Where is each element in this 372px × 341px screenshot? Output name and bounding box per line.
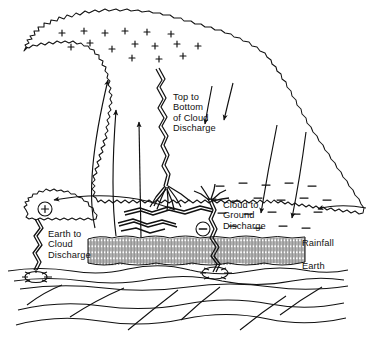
label-rainfall: Rainfall: [302, 238, 334, 249]
left-small-cloud: [24, 189, 97, 220]
thunderstorm-diagram: Top to Bottom of Cloud Discharge Cloud t…: [0, 0, 372, 341]
ground-burst-left: [22, 269, 52, 283]
label-earth: Earth: [302, 261, 325, 272]
bolt-earth-to-cloud: [33, 219, 43, 270]
circled-positive-marker: [38, 202, 52, 216]
label-top-to-bottom-of-cloud-discharge: Top to Bottom of Cloud Discharge: [173, 92, 216, 134]
rainfall-band: [86, 232, 308, 268]
label-earth-to-cloud-discharge: Earth to Cloud Discharge: [48, 229, 91, 260]
label-cloud-to-ground-discharge: Cloud to Ground Discharge: [223, 200, 266, 231]
earth-surface-line: [8, 266, 348, 285]
circled-negative-marker: [196, 222, 210, 236]
subsurface-strata: [16, 284, 348, 330]
diagram-canvas: [0, 0, 372, 341]
